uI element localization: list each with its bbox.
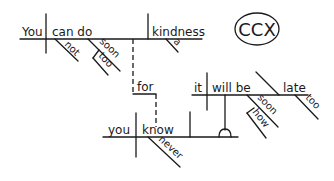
noun-clause: it will be late soon how too <box>192 72 323 138</box>
word-for: for <box>137 80 154 94</box>
main-clause: You can do kindness not soon too a <box>20 14 205 75</box>
word-not: not <box>63 39 82 58</box>
word-subject: You <box>21 25 43 39</box>
word-know: know <box>142 123 174 137</box>
word-verb: can do <box>52 25 92 39</box>
sentence-diagram: CCX You can do kindness not soon too a f… <box>0 0 334 181</box>
word-will-be: will be <box>212 81 251 95</box>
word-it: it <box>194 81 202 95</box>
word-you: you <box>108 123 130 137</box>
ccx-logo: CCX <box>235 13 279 45</box>
logo-text: CCX <box>238 19 275 40</box>
sub-clause: you know never <box>103 95 238 167</box>
word-late: late <box>283 81 306 95</box>
